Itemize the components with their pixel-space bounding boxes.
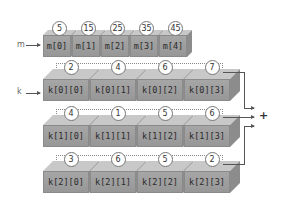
row0-connector-h	[223, 72, 244, 73]
cell-value-circle: 5	[52, 21, 67, 36]
row1-sum-arrow	[223, 117, 254, 118]
cell-value-circle: 2	[205, 152, 220, 167]
cell-index-label: k[2][3]	[184, 171, 230, 193]
cell-index-label: k[0][2]	[137, 79, 183, 101]
cell-value-circle: 5	[158, 152, 173, 167]
cell-index-label: k[0][3]	[184, 79, 230, 101]
k-label: k	[17, 87, 22, 96]
cell-index-label: k[1][2]	[137, 125, 183, 147]
cell-index-label: k[2][0]	[43, 171, 89, 193]
cell-value-circle: 45	[168, 21, 183, 36]
cell-value-circle: 4	[111, 60, 126, 75]
cell-index-label: k[1][1]	[90, 125, 136, 147]
row2-connector-v	[244, 126, 245, 165]
cell-value-circle: 6	[111, 152, 126, 167]
cell-index-label: m[3]	[130, 35, 158, 57]
cell-value-circle: 3	[64, 152, 79, 167]
m-label: m	[17, 40, 25, 49]
k-pointer-arrow	[26, 93, 40, 94]
cell-index-label: k[0][1]	[90, 79, 136, 101]
cell-index-label: k[2][2]	[137, 171, 183, 193]
row0-sum-arrow	[244, 108, 254, 109]
cell-value-circle: 7	[205, 60, 220, 75]
cell-value-circle: 2	[64, 60, 79, 75]
m-pointer-arrow	[26, 45, 40, 46]
cell-index-label: k[1][3]	[184, 125, 230, 147]
cell-index-label: k[0][0]	[43, 79, 89, 101]
cell-value-circle: 15	[81, 21, 96, 36]
cell-value-circle: 4	[64, 106, 79, 121]
cell-value-circle: 35	[139, 21, 154, 36]
row2-connector-h	[223, 164, 244, 165]
row0-connector-v	[244, 72, 245, 108]
sum-plus-symbol: +	[259, 109, 268, 122]
cell-index-label: m[0]	[43, 35, 71, 57]
cell-value-circle: 6	[158, 60, 173, 75]
cell-value-circle: 6	[205, 106, 220, 121]
cell-value-circle: 1	[111, 106, 126, 121]
cell-index-label: m[4]	[159, 35, 187, 57]
cell-index-label: k[2][1]	[90, 171, 136, 193]
row2-sum-arrow	[244, 126, 254, 127]
cell-index-label: m[1]	[72, 35, 100, 57]
cell-index-label: m[2]	[101, 35, 129, 57]
cell-index-label: k[1][0]	[43, 125, 89, 147]
cell-value-circle: 5	[158, 106, 173, 121]
cell-value-circle: 25	[110, 21, 125, 36]
